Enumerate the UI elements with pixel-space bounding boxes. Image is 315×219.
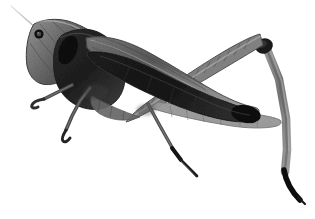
specimen-figure: Grayscale photograph of a grasshopper fa… — [0, 0, 315, 219]
grasshopper-illustration — [0, 0, 315, 219]
compound-eye — [34, 29, 43, 38]
